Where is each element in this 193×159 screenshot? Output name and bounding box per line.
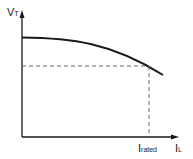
y-axis-arrow-icon [20,10,25,18]
voltage-curve [22,38,163,76]
voltage-current-diagram [0,0,193,159]
rated-subscript: rated [141,146,157,153]
x-axis-arrow-icon [171,135,179,140]
rated-current-label: Irated [138,143,157,154]
x-axis-label: IL [175,143,182,154]
y-axis-subscript: T [14,10,18,17]
y-axis-label: VT [7,7,19,18]
x-axis-subscript: L [178,146,182,153]
